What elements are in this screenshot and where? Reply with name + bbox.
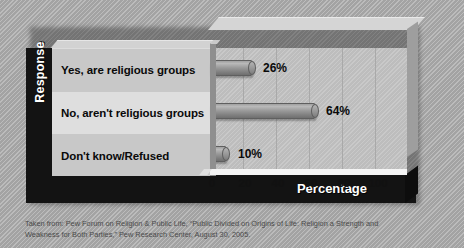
category-row: Yes, are religious groups: [52, 49, 210, 91]
caption-line-2: Weakness for Both Parties,” Pew Research…: [25, 230, 435, 241]
chart-right-face: [407, 22, 418, 157]
category-row: No, aren't religious groups: [52, 92, 210, 134]
figure: Response Percentage Yes, are religious g…: [0, 0, 464, 248]
plot-floor-edge: [210, 169, 407, 175]
bar-value-label: 26%: [263, 61, 287, 75]
bar-end-cap: [222, 147, 230, 161]
caption-line-1: Taken from: Pew Forum on Religion & Publ…: [25, 219, 435, 230]
bar-value-label: 64%: [326, 104, 350, 118]
bar-end-cap: [248, 61, 256, 75]
y-axis-title: Response: [33, 12, 47, 132]
category-row: Don't know/Refused: [52, 135, 210, 177]
y-axis-wall: [210, 43, 216, 176]
source-caption: Taken from: Pew Forum on Religion & Publ…: [25, 219, 435, 240]
plot-area: 26% 64% 10%: [210, 48, 407, 175]
category-label-panel: Yes, are religious groups No, aren't rel…: [52, 48, 210, 176]
chart-top-face: [208, 17, 425, 30]
category-label: Yes, are religious groups: [61, 64, 195, 76]
category-label: No, aren't religious groups: [61, 107, 204, 119]
x-tick-label: 100: [358, 177, 398, 189]
bar-value-label: 10%: [238, 147, 262, 161]
category-label: Don't know/Refused: [61, 150, 169, 162]
bar-series-1: [210, 103, 316, 119]
bar-end-cap: [311, 104, 319, 118]
bar-series-0: [210, 60, 253, 76]
bar-chart: Response Percentage Yes, are religious g…: [22, 17, 422, 203]
gridline: [375, 48, 376, 175]
